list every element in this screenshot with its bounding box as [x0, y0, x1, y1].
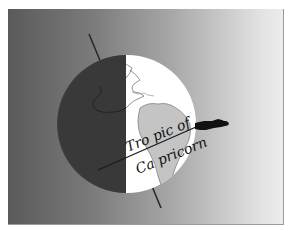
person-silhouette [195, 119, 229, 130]
globe-illustration: Tro pic of Ca pricorn [0, 0, 295, 235]
